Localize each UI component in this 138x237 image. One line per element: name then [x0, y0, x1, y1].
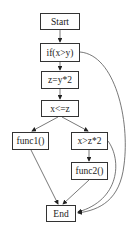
edges-layer	[0, 0, 138, 237]
node-func1: func1()	[12, 132, 49, 150]
node-label: x<=z	[50, 104, 70, 114]
node-label: func1()	[17, 136, 45, 146]
node-label: End	[53, 209, 68, 219]
node-label: x>z*2	[78, 136, 102, 146]
node-cond1: x<=z	[41, 100, 79, 117]
edge-func1-end	[31, 150, 58, 204]
node-label: if(x>y)	[47, 48, 74, 58]
edge-func2-end	[63, 180, 89, 204]
node-label: z=y*2	[48, 75, 72, 85]
edge-cond1-cond2	[62, 117, 88, 131]
node-if: if(x>y)	[40, 43, 80, 62]
edge-cond1-func1	[32, 117, 58, 131]
node-label: Start	[51, 17, 69, 27]
node-end: End	[46, 205, 76, 222]
node-cond2: x>z*2	[71, 132, 108, 150]
node-start: Start	[40, 13, 80, 30]
node-func2: func2()	[71, 162, 108, 180]
node-label: func2()	[76, 166, 104, 176]
node-assign: z=y*2	[41, 71, 79, 89]
